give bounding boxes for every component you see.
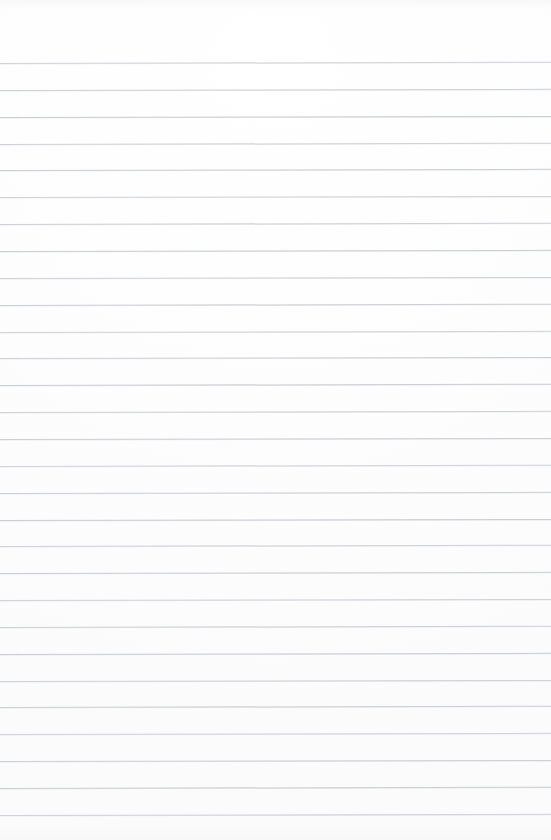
ruled-line	[0, 384, 551, 386]
ruled-line	[0, 733, 551, 735]
scan-edge-shading	[0, 0, 551, 840]
ruled-line	[0, 196, 551, 198]
ruled-line	[0, 572, 551, 574]
ruled-line	[0, 303, 551, 305]
ruled-line	[0, 814, 551, 816]
ruled-line	[0, 62, 551, 64]
ruled-line	[0, 142, 551, 144]
ruled-line	[0, 519, 551, 521]
ruled-line	[0, 330, 551, 332]
ruled-line	[0, 438, 551, 440]
ruled-line	[0, 169, 551, 171]
ruled-line	[0, 545, 551, 547]
ruled-line-layer	[0, 0, 551, 840]
notebook-page: Blank Ruled Notebook Paper A blank, unwr…	[0, 0, 551, 840]
ruled-line	[0, 680, 551, 682]
paper-grain-texture	[0, 0, 551, 840]
paper-surface	[0, 0, 551, 840]
ruled-line	[0, 626, 551, 628]
ruled-line	[0, 491, 551, 493]
ruled-line	[0, 250, 551, 252]
ruled-line	[0, 599, 551, 601]
ruled-line	[0, 357, 551, 359]
ruled-line	[0, 760, 551, 762]
ruled-line	[0, 277, 551, 279]
ruled-line	[0, 411, 551, 413]
ruled-line	[0, 706, 551, 708]
ruled-line	[0, 464, 551, 466]
ruled-line	[0, 116, 551, 118]
ruled-line	[0, 653, 551, 655]
ruled-line	[0, 787, 551, 789]
ruled-line	[0, 89, 551, 91]
ruled-line	[0, 223, 551, 225]
